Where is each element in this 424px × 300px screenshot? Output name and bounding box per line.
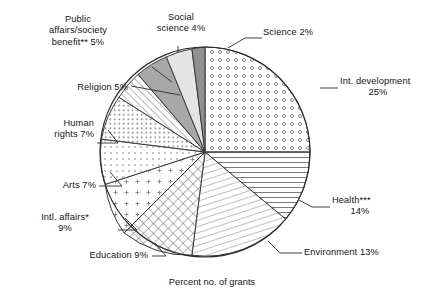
label-arts: Arts 7% — [4, 180, 96, 191]
label-intl-affairs-line2: 9% — [58, 223, 72, 233]
label-int-development-line2: 25% — [340, 87, 416, 98]
label-health-line2: 14% — [332, 206, 388, 217]
label-public-affairs: Publicaffairs/societybenefit** 5% — [19, 14, 137, 48]
label-religion: Religion 5% — [4, 82, 128, 93]
label-social-science-line1: Social — [168, 12, 194, 22]
label-intl-affairs-line1: Intl. affairs* — [41, 212, 89, 222]
label-int-development: Int. development25% — [340, 76, 424, 99]
label-social-science: Socialscience 4% — [133, 12, 229, 35]
label-human-rights-line2: rights 7% — [54, 129, 94, 139]
label-human-rights: Humanrights 7% — [4, 118, 94, 141]
label-intl-affairs: Intl. affairs*9% — [14, 212, 116, 235]
leader-health — [299, 200, 330, 207]
leader-science — [228, 38, 262, 48]
pie-slices — [100, 47, 310, 257]
label-public-affairs-line3: benefit** 5% — [52, 37, 104, 47]
label-public-affairs-line1: Public — [65, 14, 91, 24]
figure-container: Publicaffairs/societybenefit** 5% Social… — [0, 0, 424, 300]
label-health: Health***14% — [332, 195, 420, 218]
label-human-rights-line1: Human — [64, 118, 94, 128]
figure-caption: Percent no. of grants — [0, 277, 424, 287]
label-social-science-line2: science 4% — [157, 23, 206, 33]
label-science: Science 2% — [263, 27, 363, 38]
label-int-development-line1: Int. development — [340, 76, 410, 86]
label-health-line1: Health*** — [332, 195, 371, 205]
label-environment: Environment 13% — [304, 247, 422, 258]
slice-int-development[interactable] — [205, 47, 310, 152]
label-education: Education 9% — [30, 250, 148, 261]
label-public-affairs-line2: affairs/society — [49, 25, 107, 35]
leader-environment — [268, 241, 302, 253]
